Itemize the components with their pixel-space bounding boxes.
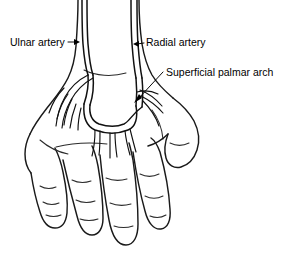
ulnar-branch-e	[49, 88, 64, 113]
label-ulnar-artery: Ulnar artery	[10, 36, 80, 48]
crease-middle-proximal	[106, 178, 127, 180]
forearm-left-border	[30, 0, 78, 134]
radial-artery-label-text: Radial artery	[146, 36, 206, 48]
label-radial-artery: Radial artery	[133, 36, 206, 48]
palm-ulnar-border	[25, 134, 31, 173]
radial-artery-lateral-wall	[131, 0, 136, 78]
crease-little-distal	[46, 215, 61, 217]
ulnar-branch-c	[70, 104, 76, 128]
radial-artery-arrowhead	[133, 41, 139, 47]
forearm-right-border	[139, 0, 173, 98]
palm-crease-thenar	[40, 140, 68, 154]
wrist-crease	[84, 70, 126, 75]
hand-arterial-diagram-canvas: Ulnar artery Radial artery Superficial p…	[0, 0, 295, 262]
crease-middle-middle	[110, 203, 131, 205]
crease-little-middle	[43, 202, 59, 204]
ulnar-artery-label-text: Ulnar artery	[10, 36, 66, 48]
crease-index-middle	[145, 196, 163, 198]
finger-middle-outline	[100, 143, 138, 245]
arteries-group	[49, 0, 163, 158]
crease-middle-distal	[114, 226, 133, 228]
superficial-palmar-arch-inner	[90, 105, 142, 126]
anatomy-diagram: Ulnar artery Radial artery Superficial p…	[0, 0, 295, 262]
finger-ring-outline	[63, 146, 103, 235]
superficial-palmar-arch-label-text: Superficial palmar arch	[166, 66, 274, 78]
radial-branch-thenar	[143, 101, 159, 126]
digital-artery-2b	[115, 133, 117, 157]
ulnar-artery-lateral-wall	[87, 0, 93, 75]
crease-index-proximal	[140, 174, 159, 176]
crease-little-proximal	[40, 186, 56, 188]
radial-artery-to-arch-medial	[142, 78, 143, 107]
label-superficial-palmar-arch: Superficial palmar arch	[134, 66, 274, 103]
ulnar-branch-d	[78, 108, 81, 130]
palm-creases-group	[40, 140, 107, 154]
thumb-ip-crease	[170, 143, 189, 145]
thumb-outline	[165, 98, 199, 168]
crease-ring-proximal	[72, 180, 91, 182]
ulnar-artery-to-arch-medial	[84, 75, 88, 104]
crease-ring-distal	[80, 219, 98, 221]
crease-index-distal	[150, 215, 166, 217]
crease-ring-middle	[76, 200, 95, 202]
